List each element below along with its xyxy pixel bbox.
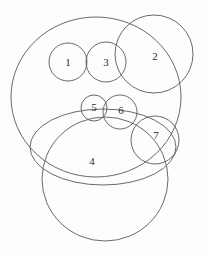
shape-bottom-circle — [42, 117, 168, 241]
label-2: 2 — [152, 50, 158, 62]
shape-big-top-circle — [11, 17, 181, 177]
label-1: 1 — [65, 56, 71, 68]
diagram-canvas: 1 3 2 5 6 7 4 — [0, 0, 206, 254]
shape-circle-4-ellipse — [30, 109, 176, 185]
label-5: 5 — [91, 101, 97, 113]
label-4: 4 — [89, 155, 95, 167]
label-3: 3 — [103, 56, 109, 68]
label-7: 7 — [153, 129, 159, 141]
overlapping-circles-figure: 1 3 2 5 6 7 4 — [0, 0, 206, 254]
label-6: 6 — [118, 104, 124, 116]
